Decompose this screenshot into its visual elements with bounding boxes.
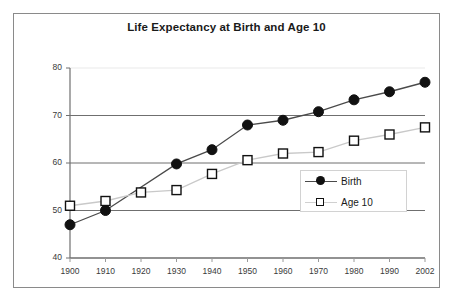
x-tick-label: 2002: [408, 266, 442, 276]
x-tick-label: 1920: [124, 266, 158, 276]
x-tick-label: 1930: [160, 266, 194, 276]
y-tick-label: 40: [40, 252, 62, 262]
x-tick-label: 1960: [266, 266, 300, 276]
y-tick-label: 70: [40, 110, 62, 120]
x-tick-label: 1970: [302, 266, 336, 276]
x-tick-label: 1910: [89, 266, 123, 276]
x-tick-label: 1980: [337, 266, 371, 276]
legend-swatch-birth: [301, 171, 341, 192]
legend-label-age10: Age 10: [341, 197, 373, 208]
legend-label-birth: Birth: [341, 176, 362, 187]
y-tick-label: 50: [40, 205, 62, 215]
y-tick-label: 60: [40, 157, 62, 167]
x-tick-label: 1900: [53, 266, 87, 276]
x-tick-label: 1940: [195, 266, 229, 276]
filled-circle-icon: [316, 176, 325, 185]
open-square-icon: [316, 198, 324, 206]
chart-figure: Life Expectancy at Birth and Age 10 4050…: [0, 0, 453, 303]
y-tick-label: 80: [40, 62, 62, 72]
chart-legend: Birth Age 10: [300, 170, 407, 212]
legend-swatch-age10: [301, 192, 341, 213]
x-tick-label: 1990: [373, 266, 407, 276]
legend-item-age10: Age 10: [301, 192, 408, 213]
legend-item-birth: Birth: [301, 171, 408, 192]
x-tick-label: 1950: [231, 266, 265, 276]
plot-area: [0, 0, 453, 303]
